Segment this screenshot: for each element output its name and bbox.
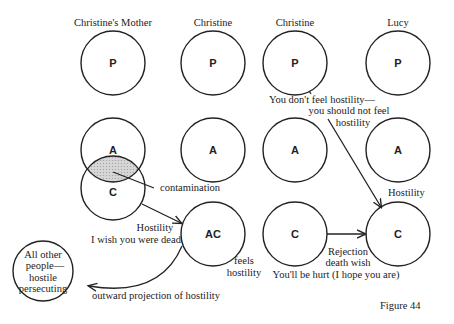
mother-parent-label: P — [109, 57, 116, 69]
column-title-mother: Christine's Mother — [74, 17, 153, 28]
feels-label-2: hostility — [227, 267, 262, 278]
dont-feel-label-3: hostility — [336, 117, 371, 128]
christine1-adult-circle: A — [181, 118, 245, 182]
christine1-parent-circle: P — [181, 31, 245, 95]
others-line-3: hostile — [29, 272, 57, 283]
contamination-label: contamination — [160, 182, 221, 193]
column-title-christine-1: Christine — [194, 17, 233, 28]
others-line-4: persecuting — [19, 283, 68, 294]
column-title-lucy: Lucy — [387, 17, 409, 28]
mother-adult-label: A — [109, 144, 117, 156]
figure-caption: Figure 44 — [380, 300, 421, 311]
transactional-diagram: Christine's Mother Christine Christine L… — [0, 0, 454, 324]
christine1-adult-label: A — [209, 144, 217, 156]
mother-parent-circle: P — [81, 31, 145, 95]
wish-dead-label: I wish you were dead — [91, 234, 182, 245]
dont-feel-arrow — [328, 119, 381, 207]
christine2-child-label: C — [291, 228, 299, 240]
lucy-parent-label: P — [394, 57, 401, 69]
others-line-1: All other — [24, 249, 62, 260]
christine2-parent-label: P — [291, 57, 298, 69]
lucy-child-circle: C — [366, 202, 430, 266]
others-line-2: people— — [26, 260, 65, 271]
outward-projection-label: outward projection of hostility — [92, 290, 221, 301]
christine1-ac-label: AC — [205, 228, 221, 240]
dont-feel-label-1: You don't feel hostility— — [269, 94, 376, 105]
christine2-adult-circle: A — [263, 118, 327, 182]
lucy-adult-circle: A — [366, 118, 430, 182]
christine1-parent-label: P — [209, 57, 216, 69]
mother-child-label: C — [109, 186, 117, 198]
all-other-people-circle: All other people— hostile persecuting — [13, 241, 73, 301]
lucy-child-label: C — [394, 228, 402, 240]
column-title-christine-2: Christine — [276, 17, 315, 28]
outward-projection-arrow — [89, 246, 182, 288]
hope-hurt-label: You'll be hurt (I hope you are) — [273, 269, 400, 281]
christine2-parent-circle: P — [263, 31, 327, 95]
rejection-label: Rejection — [328, 246, 369, 257]
christine2-adult-label: A — [291, 144, 299, 156]
lucy-adult-label: A — [394, 144, 402, 156]
hostility-label-1: Hostility — [137, 222, 175, 233]
hostility-arrow — [142, 204, 181, 223]
christine2-child-circle: C — [263, 202, 327, 266]
lucy-parent-circle: P — [366, 31, 430, 95]
hostility-label-2: Hostility — [388, 187, 426, 198]
feels-label-1: feels — [234, 255, 254, 266]
dont-feel-label-2: you should not feel — [309, 105, 390, 116]
death-wish-label: death wish — [325, 257, 371, 268]
